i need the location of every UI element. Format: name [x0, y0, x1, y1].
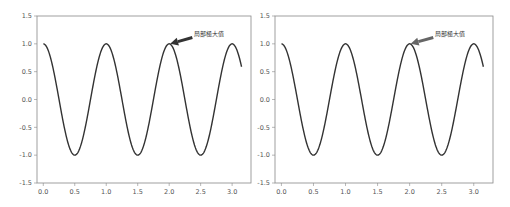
axes-frame — [37, 16, 251, 183]
y-tick-label: 0.0 — [22, 96, 32, 104]
y-tick-label: 1.0 — [260, 40, 270, 48]
y-tick-label: 1.0 — [22, 40, 32, 48]
y-tick-label: 0.5 — [260, 68, 270, 76]
x-tick-label: 2.0 — [404, 188, 414, 196]
y-tick-label: -0.5 — [257, 124, 270, 132]
x-tick-label: 1.5 — [133, 188, 143, 196]
x-tick-label: 1.5 — [372, 188, 382, 196]
y-tick-label: 0.5 — [22, 68, 32, 76]
annotation-label: 局部極大值 — [194, 30, 224, 38]
figure: 1.51.00.50.0-0.5-1.0-1.50.00.51.01.52.02… — [0, 0, 510, 207]
x-tick-label: 0.5 — [70, 188, 80, 196]
y-tick-label: -1.0 — [19, 151, 32, 159]
y-tick-label: 1.5 — [22, 12, 32, 20]
x-tick-label: 1.0 — [340, 188, 350, 196]
y-tick-label: -0.5 — [19, 124, 32, 132]
x-tick-label: 0.0 — [276, 188, 286, 196]
y-tick-label: 1.5 — [260, 12, 270, 20]
x-tick-label: 0.5 — [308, 188, 318, 196]
y-tick-label: 0.0 — [260, 96, 270, 104]
axes-frame — [275, 16, 493, 183]
x-tick-label: 2.5 — [437, 188, 447, 196]
x-tick-label: 3.0 — [469, 188, 479, 196]
subplot-2: 1.51.00.50.0-0.5-1.0-1.50.00.51.01.52.02… — [257, 12, 493, 196]
x-tick-label: 2.0 — [164, 188, 174, 196]
y-tick-label: -1.5 — [257, 179, 270, 187]
x-tick-label: 3.0 — [227, 188, 237, 196]
subplot-1: 1.51.00.50.0-0.5-1.0-1.50.00.51.01.52.02… — [19, 12, 251, 196]
x-tick-label: 1.0 — [101, 188, 111, 196]
x-tick-label: 0.0 — [38, 188, 48, 196]
y-tick-label: -1.5 — [19, 179, 32, 187]
x-tick-label: 2.5 — [195, 188, 205, 196]
y-tick-label: -1.0 — [257, 151, 270, 159]
annotation-label: 局部極大值 — [435, 30, 465, 38]
